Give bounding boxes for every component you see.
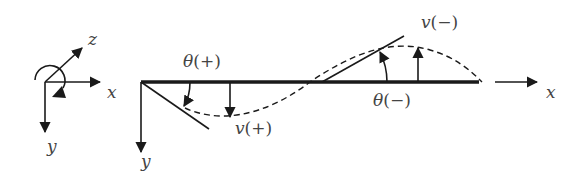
rotation-positive-arrow [184,82,190,106]
beam-group: y x θ(+) v(+) θ(−) v(−) [140,12,556,171]
beam-label-y: y [140,151,151,171]
beam-label-x: x [546,82,556,102]
label-v-positive: v(+) [235,118,272,138]
beam-sign-convention-diagram: z x y y x θ(+) v(+) [0,0,587,173]
label-v-negative: v(−) [421,12,458,32]
rotation-negative-arrow [380,52,387,82]
label-z: z [87,29,98,49]
label-x: x [107,82,117,102]
label-theta-positive: θ(+) [183,51,221,71]
label-theta-negative: θ(−) [373,90,411,110]
coordinate-system: z x y [35,29,117,156]
tangent-line-negative [322,36,404,82]
tangent-line-positive [141,82,209,129]
label-y: y [46,136,57,156]
